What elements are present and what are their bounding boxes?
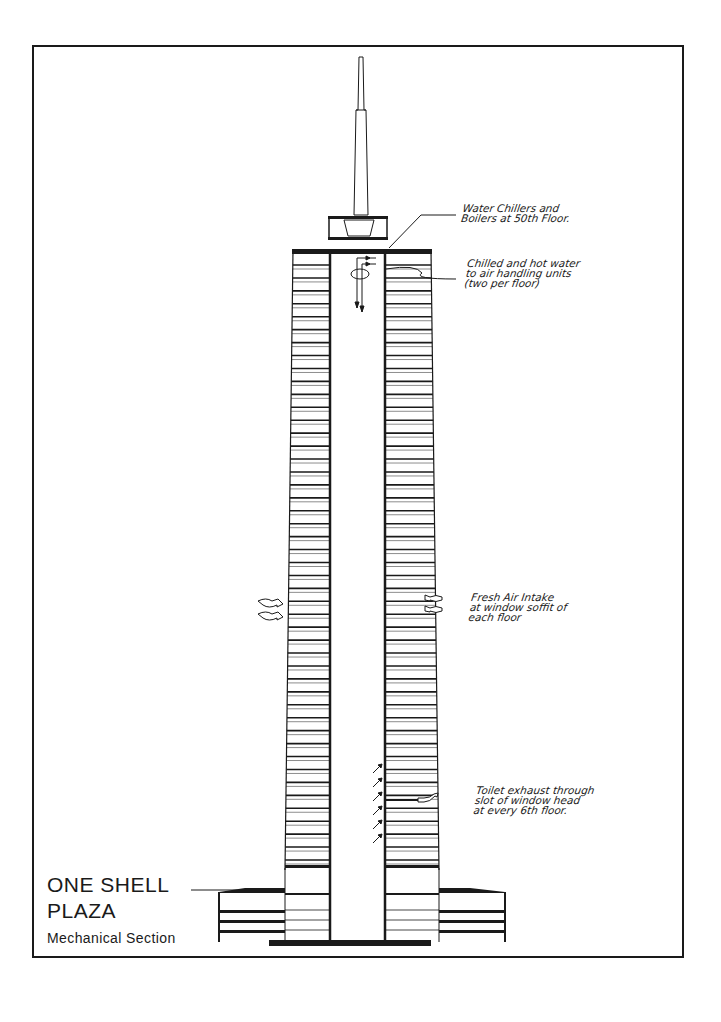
water-riser <box>351 256 376 312</box>
floor-slabs <box>285 265 439 864</box>
annotation-chillers: Water Chillers and Boilers at 50th Floor… <box>461 203 573 223</box>
title-line-2: PLAZA <box>47 898 169 924</box>
annotation-toilet-exhaust: Toilet exhaust through slot of window he… <box>473 785 595 815</box>
drawing-sheet: Water Chillers and Boilers at 50th Floor… <box>0 0 721 1022</box>
toilet-exhaust-arrows <box>373 764 438 843</box>
border-frame <box>33 46 683 957</box>
roof-slab <box>292 249 432 254</box>
annotation-fresh-air-intake: Fresh Air Intake at window soffit of eac… <box>468 592 569 622</box>
tower-lobby <box>285 865 439 942</box>
title-line-1: ONE SHELL <box>47 872 169 898</box>
annotation-chilled-hot-water: Chilled and hot water to air handling un… <box>464 258 581 288</box>
spire <box>354 57 368 215</box>
drawing-subtitle: Mechanical Section <box>47 930 176 946</box>
drawing-title: ONE SHELL PLAZA <box>47 872 169 924</box>
fresh-air-intake-arrows <box>258 595 442 620</box>
section-drawing <box>0 0 721 1022</box>
rooftop-penthouse <box>328 216 388 240</box>
podium <box>219 888 505 946</box>
